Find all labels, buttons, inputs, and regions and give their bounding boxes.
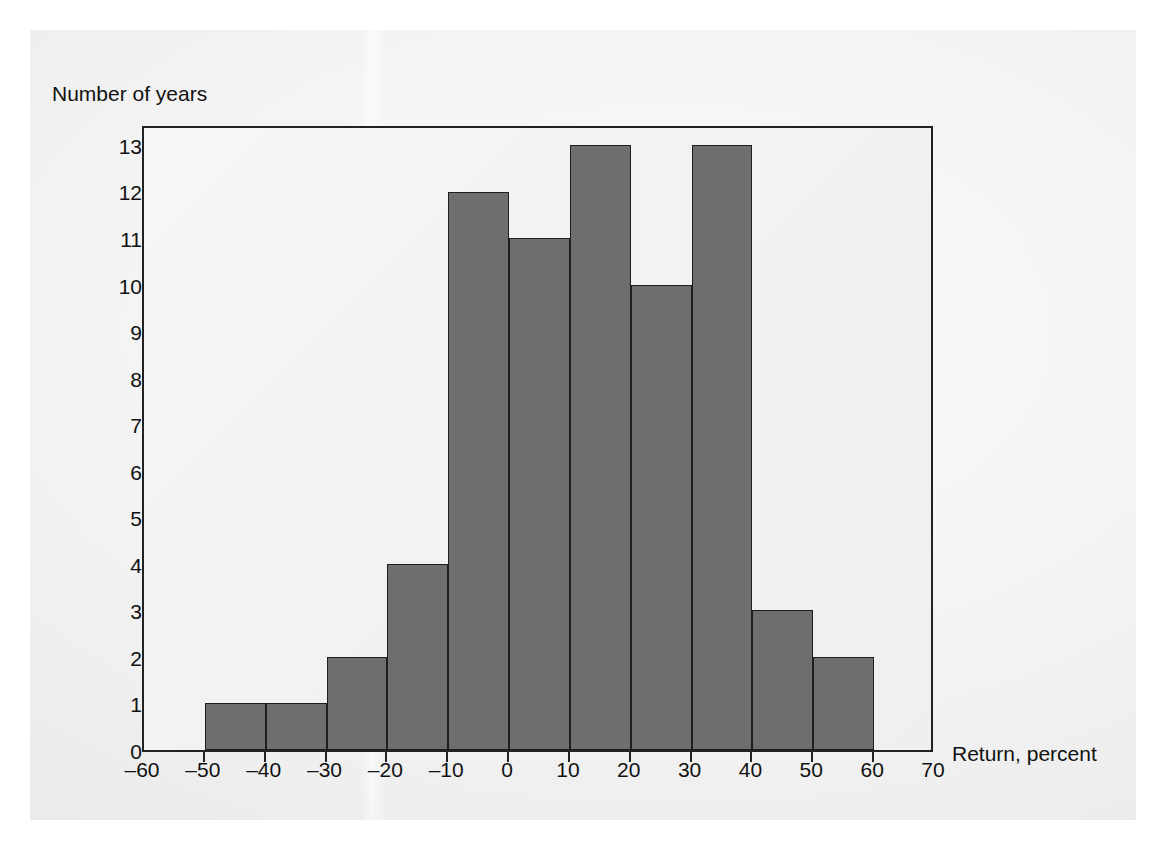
y-axis-title: Number of years <box>52 82 207 106</box>
x-tick-label: –50 <box>168 758 238 782</box>
histogram-bar <box>509 238 570 750</box>
y-tick-label: 9 <box>102 321 142 345</box>
y-tick-label: 13 <box>102 135 142 159</box>
y-tick-label: 5 <box>102 507 142 531</box>
histogram-bar <box>813 657 874 750</box>
histogram-bar <box>692 145 753 750</box>
y-axis-ticks: 012345678910111213 <box>84 126 142 752</box>
histogram-bar <box>570 145 631 750</box>
y-tick-label: 7 <box>102 414 142 438</box>
histogram-bar <box>266 703 327 750</box>
x-tick-label: 0 <box>472 758 542 782</box>
x-axis-ticks: –60–50–40–30–20–10010203040506070 <box>142 752 933 792</box>
histogram-bar <box>327 657 388 750</box>
x-axis-title: Return, percent <box>952 742 1097 766</box>
histogram-bars <box>144 128 931 750</box>
x-tick-label: –40 <box>229 758 299 782</box>
figure-page: Number of years 012345678910111213 –60–5… <box>0 0 1166 856</box>
x-tick-label: –30 <box>290 758 360 782</box>
x-tick-label: –10 <box>411 758 481 782</box>
x-tick-label: –60 <box>107 758 177 782</box>
y-tick-label: 3 <box>102 600 142 624</box>
histogram-bar <box>752 610 813 750</box>
histogram-bar <box>387 564 448 750</box>
x-tick-label: –20 <box>350 758 420 782</box>
x-tick-label: 50 <box>776 758 846 782</box>
y-tick-label: 12 <box>102 181 142 205</box>
y-tick-label: 1 <box>102 693 142 717</box>
x-tick-label: 30 <box>655 758 725 782</box>
histogram-bar <box>631 285 692 750</box>
y-tick-label: 2 <box>102 647 142 671</box>
histogram-bar <box>205 703 266 750</box>
y-tick-label: 11 <box>102 228 142 252</box>
y-tick-label: 8 <box>102 368 142 392</box>
x-tick-label: 40 <box>715 758 785 782</box>
x-tick-label: 10 <box>533 758 603 782</box>
x-tick-label: 60 <box>837 758 907 782</box>
y-tick-label: 4 <box>102 554 142 578</box>
x-tick-label: 20 <box>594 758 664 782</box>
y-tick-label: 10 <box>102 275 142 299</box>
histogram-bar <box>448 192 509 751</box>
y-tick-label: 6 <box>102 461 142 485</box>
plot-frame <box>142 126 933 752</box>
